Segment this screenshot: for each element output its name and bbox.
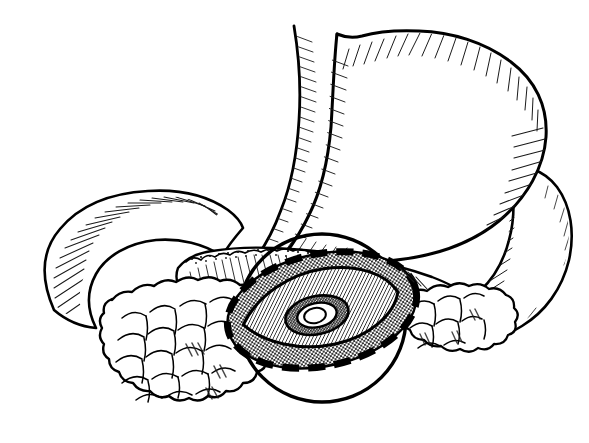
figure-root: Pancreatic lesion with dashed resection … xyxy=(0,0,589,443)
stomach-group xyxy=(256,26,546,280)
anatomy-illustration xyxy=(0,0,589,443)
